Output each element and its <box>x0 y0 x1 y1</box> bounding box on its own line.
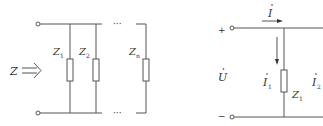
label-z2: Z 2 <box>78 46 90 59</box>
resistor-z1-right <box>281 70 287 92</box>
ellipsis-top: ··· <box>113 19 122 29</box>
ellipsis-bottom: ··· <box>113 108 122 118</box>
impedance-label: Z <box>9 65 18 78</box>
resistor-z2 <box>93 59 99 81</box>
svg-text:1: 1 <box>60 52 64 59</box>
label-z1: Z 1 <box>52 46 64 59</box>
terminal-bottom-left <box>36 111 40 115</box>
resistor-zn <box>143 59 149 81</box>
plus-sign: + <box>218 25 226 35</box>
svg-text:1: 1 <box>299 95 303 102</box>
svg-text:2: 2 <box>317 83 321 90</box>
svg-text:I: I <box>267 7 273 20</box>
svg-text:U: U <box>218 71 228 84</box>
resistor-z1 <box>67 59 73 81</box>
equiv-arrow-head <box>34 63 41 78</box>
label-current-i2: I 2 <box>311 73 321 90</box>
terminal-plus <box>230 26 234 30</box>
label-z1-right: Z 1 <box>291 89 303 102</box>
label-zn: Z n <box>128 46 140 59</box>
arrowhead-i <box>277 19 283 23</box>
right-circuit <box>230 21 323 119</box>
svg-text:2: 2 <box>86 52 90 59</box>
terminal-top-left <box>36 22 40 26</box>
circuit-diagram: Z ··· ··· Z 1 Z 2 Z n + − U I I 1 <box>0 0 323 126</box>
arrowhead-i1 <box>275 59 279 65</box>
label-current-i: I <box>267 4 273 20</box>
label-voltage-u: U <box>218 68 228 84</box>
svg-text:n: n <box>136 52 140 59</box>
label-current-i1: I 1 <box>262 73 272 90</box>
terminal-minus <box>230 115 234 119</box>
minus-sign: − <box>218 111 226 121</box>
svg-text:1: 1 <box>268 83 272 90</box>
left-circuit <box>22 22 149 115</box>
